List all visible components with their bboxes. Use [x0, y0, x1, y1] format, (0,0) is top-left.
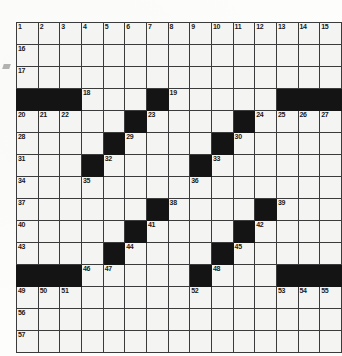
crossword-cell[interactable] — [60, 199, 82, 221]
crossword-cell[interactable] — [125, 155, 147, 177]
crossword-cell[interactable] — [190, 67, 212, 89]
crossword-cell[interactable] — [298, 45, 320, 67]
crossword-cell[interactable] — [190, 331, 212, 353]
crossword-cell[interactable] — [276, 331, 298, 353]
crossword-cell[interactable] — [38, 133, 60, 155]
crossword-cell[interactable] — [233, 177, 255, 199]
crossword-cell[interactable]: 45 — [233, 243, 255, 265]
crossword-cell[interactable] — [211, 221, 233, 243]
crossword-cell[interactable]: 57 — [17, 331, 39, 353]
crossword-cell[interactable] — [168, 111, 190, 133]
crossword-cell[interactable]: 7 — [146, 23, 168, 45]
crossword-cell[interactable]: 12 — [255, 23, 277, 45]
crossword-cell[interactable] — [255, 133, 277, 155]
crossword-cell[interactable]: 32 — [103, 155, 125, 177]
crossword-cell[interactable] — [125, 45, 147, 67]
crossword-cell[interactable]: 48 — [211, 265, 233, 287]
crossword-cell[interactable]: 1 — [17, 23, 39, 45]
crossword-cell[interactable]: 46 — [81, 265, 103, 287]
crossword-cell[interactable]: 47 — [103, 265, 125, 287]
crossword-cell[interactable] — [125, 199, 147, 221]
crossword-cell[interactable]: 11 — [233, 23, 255, 45]
crossword-cell[interactable] — [320, 199, 342, 221]
crossword-cell[interactable] — [211, 309, 233, 331]
crossword-cell[interactable] — [60, 45, 82, 67]
crossword-cell[interactable] — [211, 177, 233, 199]
crossword-cell[interactable] — [255, 177, 277, 199]
crossword-cell[interactable] — [38, 177, 60, 199]
crossword-cell[interactable] — [255, 287, 277, 309]
crossword-cell[interactable] — [168, 243, 190, 265]
crossword-cell[interactable] — [255, 243, 277, 265]
crossword-cell[interactable] — [211, 287, 233, 309]
crossword-cell[interactable]: 53 — [276, 287, 298, 309]
crossword-cell[interactable]: 22 — [60, 111, 82, 133]
crossword-cell[interactable] — [255, 331, 277, 353]
crossword-cell[interactable] — [211, 45, 233, 67]
crossword-cell[interactable] — [255, 265, 277, 287]
crossword-cell[interactable] — [125, 309, 147, 331]
crossword-cell[interactable] — [38, 155, 60, 177]
crossword-cell[interactable]: 49 — [17, 287, 39, 309]
crossword-cell[interactable] — [103, 111, 125, 133]
crossword-cell[interactable] — [255, 67, 277, 89]
crossword-cell[interactable] — [60, 155, 82, 177]
crossword-cell[interactable]: 3 — [60, 23, 82, 45]
crossword-cell[interactable] — [320, 155, 342, 177]
crossword-cell[interactable] — [190, 45, 212, 67]
crossword-cell[interactable] — [146, 265, 168, 287]
crossword-cell[interactable] — [103, 67, 125, 89]
crossword-cell[interactable] — [125, 67, 147, 89]
crossword-cell[interactable]: 56 — [17, 309, 39, 331]
crossword-cell[interactable] — [60, 309, 82, 331]
crossword-cell[interactable] — [298, 309, 320, 331]
crossword-cell[interactable] — [298, 199, 320, 221]
crossword-cell[interactable]: 2 — [38, 23, 60, 45]
crossword-cell[interactable]: 35 — [81, 177, 103, 199]
crossword-cell[interactable] — [298, 243, 320, 265]
crossword-cell[interactable] — [81, 111, 103, 133]
crossword-cell[interactable]: 21 — [38, 111, 60, 133]
crossword-cell[interactable] — [60, 177, 82, 199]
crossword-cell[interactable] — [276, 67, 298, 89]
crossword-cell[interactable]: 5 — [103, 23, 125, 45]
crossword-cell[interactable] — [81, 199, 103, 221]
crossword-cell[interactable] — [233, 287, 255, 309]
crossword-cell[interactable] — [255, 89, 277, 111]
crossword-cell[interactable]: 31 — [17, 155, 39, 177]
crossword-cell[interactable] — [320, 331, 342, 353]
crossword-cell[interactable]: 15 — [320, 23, 342, 45]
crossword-cell[interactable] — [320, 177, 342, 199]
crossword-cell[interactable]: 14 — [298, 23, 320, 45]
crossword-cell[interactable]: 24 — [255, 111, 277, 133]
crossword-cell[interactable]: 4 — [81, 23, 103, 45]
crossword-cell[interactable]: 52 — [190, 287, 212, 309]
crossword-cell[interactable] — [168, 177, 190, 199]
crossword-cell[interactable]: 19 — [168, 89, 190, 111]
crossword-cell[interactable]: 39 — [276, 199, 298, 221]
crossword-cell[interactable] — [190, 89, 212, 111]
crossword-cell[interactable] — [81, 133, 103, 155]
crossword-grid[interactable]: 1234567891011121314151617181920212223242… — [16, 22, 342, 353]
crossword-cell[interactable]: 37 — [17, 199, 39, 221]
crossword-cell[interactable]: 51 — [60, 287, 82, 309]
crossword-cell[interactable] — [146, 67, 168, 89]
crossword-cell[interactable] — [146, 331, 168, 353]
crossword-cell[interactable] — [320, 309, 342, 331]
crossword-cell[interactable] — [146, 309, 168, 331]
crossword-cell[interactable] — [190, 243, 212, 265]
crossword-cell[interactable] — [81, 309, 103, 331]
crossword-cell[interactable] — [38, 45, 60, 67]
crossword-cell[interactable] — [233, 155, 255, 177]
crossword-cell[interactable] — [81, 221, 103, 243]
crossword-cell[interactable] — [168, 221, 190, 243]
crossword-cell[interactable] — [146, 45, 168, 67]
crossword-cell[interactable] — [103, 89, 125, 111]
crossword-cell[interactable]: 8 — [168, 23, 190, 45]
crossword-cell[interactable] — [81, 67, 103, 89]
crossword-cell[interactable] — [125, 177, 147, 199]
crossword-cell[interactable] — [276, 309, 298, 331]
crossword-cell[interactable]: 6 — [125, 23, 147, 45]
crossword-cell[interactable] — [211, 199, 233, 221]
crossword-cell[interactable] — [233, 265, 255, 287]
